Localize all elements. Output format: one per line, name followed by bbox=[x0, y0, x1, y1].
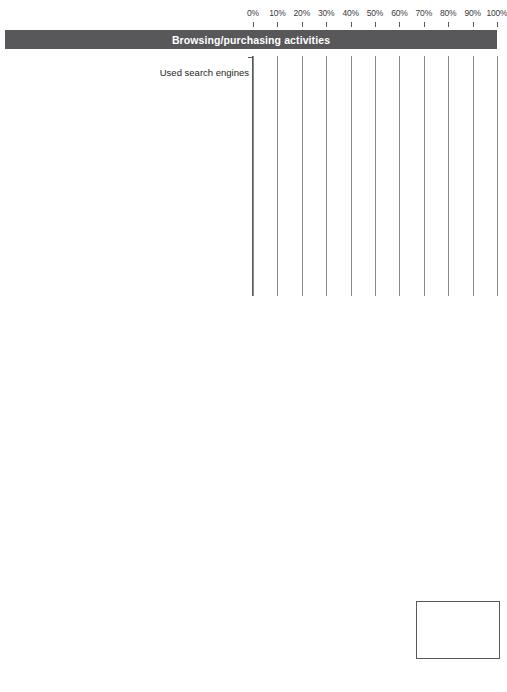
x-axis-tick bbox=[277, 22, 278, 27]
chart-legend bbox=[416, 601, 500, 659]
gridline bbox=[497, 56, 498, 296]
x-axis-tick-label: 30% bbox=[318, 8, 334, 18]
x-axis-tick bbox=[448, 22, 449, 27]
section-header: Browsing/purchasing activities bbox=[5, 30, 497, 49]
section-header-label: Browsing/purchasing activities bbox=[172, 34, 330, 46]
gridline bbox=[375, 56, 376, 296]
x-axis-tick-label: 20% bbox=[294, 8, 310, 18]
x-axis-tick-label: 40% bbox=[342, 8, 358, 18]
x-axis-tick bbox=[375, 22, 376, 27]
x-axis-tick-label: 60% bbox=[391, 8, 407, 18]
x-axis-tick bbox=[399, 22, 400, 27]
gridline bbox=[302, 56, 303, 296]
gridline bbox=[448, 56, 449, 296]
x-axis-tick-label: 100% bbox=[487, 8, 507, 18]
x-axis-tick-label: 0% bbox=[247, 8, 259, 18]
gridline bbox=[473, 56, 474, 296]
gridline bbox=[253, 56, 254, 296]
x-axis-tick-label: 70% bbox=[416, 8, 432, 18]
x-axis-tick-label: 10% bbox=[269, 8, 285, 18]
gridline bbox=[399, 56, 400, 296]
gridline bbox=[351, 56, 352, 296]
x-axis-tick bbox=[326, 22, 327, 27]
x-axis-tick-label: 50% bbox=[367, 8, 383, 18]
y-axis-spine bbox=[252, 56, 253, 296]
category-tick bbox=[248, 57, 253, 58]
gridline bbox=[277, 56, 278, 296]
category-label: Used search engines bbox=[160, 67, 249, 78]
x-axis-tick-label: 90% bbox=[464, 8, 480, 18]
x-axis-tick bbox=[253, 22, 254, 27]
gridline bbox=[424, 56, 425, 296]
x-axis-tick bbox=[473, 22, 474, 27]
x-axis-tick-label: 80% bbox=[440, 8, 456, 18]
x-axis-tick-labels: 0%10%20%30%40%50%60%70%80%90%100% bbox=[0, 8, 507, 22]
x-axis-tick bbox=[302, 22, 303, 27]
x-axis-tick bbox=[497, 22, 498, 27]
grouped-bar-chart: 0%10%20%30%40%50%60%70%80%90%100% Browsi… bbox=[0, 0, 507, 692]
x-axis-tick bbox=[424, 22, 425, 27]
gridline bbox=[326, 56, 327, 296]
x-axis-tick bbox=[351, 22, 352, 27]
